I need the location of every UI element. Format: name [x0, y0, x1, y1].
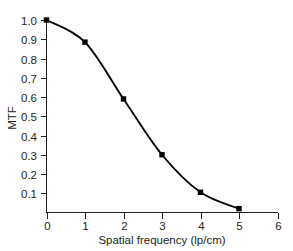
mtf-curve — [47, 20, 240, 209]
y-tick-label: 0.8 — [21, 54, 37, 66]
y-tick-label: 0.3 — [21, 150, 37, 162]
data-point-markers — [44, 17, 242, 211]
y-axis-tick-labels: 0.10.20.30.40.50.60.70.80.91.0 — [21, 15, 38, 200]
mtf-chart: 0.10.20.30.40.50.60.70.80.91.0 0123456 S… — [0, 0, 293, 251]
x-tick-label: 2 — [121, 220, 127, 232]
y-tick-label: 0.5 — [21, 111, 37, 123]
x-axis-ticks — [48, 213, 279, 219]
y-tick-label: 1.0 — [21, 15, 37, 27]
x-tick-label: 5 — [236, 220, 242, 232]
y-tick-label: 0.1 — [21, 188, 37, 200]
y-tick-label: 0.2 — [21, 169, 37, 181]
x-axis-tick-labels: 0123456 — [44, 220, 281, 232]
data-point-marker — [82, 39, 87, 44]
x-tick-label: 4 — [198, 220, 205, 232]
y-axis-title: MTF — [6, 106, 18, 130]
y-axis-ticks — [41, 21, 47, 194]
x-tick-label: 6 — [275, 220, 281, 232]
data-point-marker — [236, 206, 241, 211]
x-tick-label: 3 — [159, 220, 165, 232]
y-tick-label: 0.4 — [21, 131, 38, 143]
data-point-marker — [121, 96, 126, 101]
y-tick-label: 0.7 — [21, 73, 37, 85]
data-point-marker — [44, 17, 49, 22]
y-tick-label: 0.6 — [21, 92, 37, 104]
data-point-marker — [198, 190, 203, 195]
x-tick-label: 0 — [44, 220, 50, 232]
y-tick-label: 0.9 — [21, 34, 37, 46]
chart-plot-area: 0.10.20.30.40.50.60.70.80.91.0 0123456 S… — [0, 0, 293, 251]
data-point-marker — [159, 152, 164, 157]
x-tick-label: 1 — [82, 220, 88, 232]
x-axis-title: Spatial frequency (lp/cm) — [98, 234, 225, 246]
